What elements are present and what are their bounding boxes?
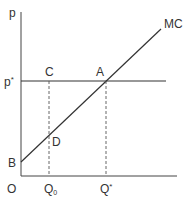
point-d-label: D bbox=[52, 135, 61, 149]
point-c-label: C bbox=[45, 65, 54, 79]
p-star-label: p* bbox=[4, 75, 14, 89]
y-axis-label: p bbox=[9, 6, 16, 20]
mc-label: MC bbox=[164, 17, 183, 31]
q0-label: Q0 bbox=[44, 182, 57, 196]
q-star-label: Q* bbox=[100, 182, 112, 196]
mc-curve bbox=[21, 29, 161, 162]
point-b-label: B bbox=[8, 156, 16, 170]
point-a-label: A bbox=[96, 65, 104, 79]
origin-label: O bbox=[7, 182, 16, 196]
economics-diagram: p MC p* C A D B O Q0 Q* bbox=[0, 0, 187, 203]
